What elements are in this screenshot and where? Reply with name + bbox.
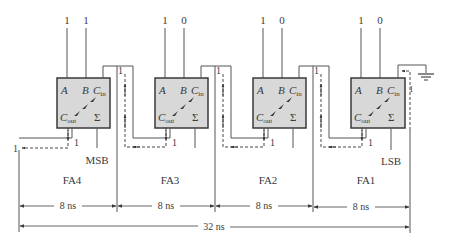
full-adder-fa4: 1 1 A B Cin Cout Σ 1 1 MSB FA4 [13,14,110,186]
carry-out-value: 1 [368,137,373,148]
full-adder-fa1: 1 0 A B Cin Cout Σ 1 1 LSB FA1 1 [299,14,434,186]
stage-delay-label: 8 ns [256,200,273,211]
lsb-label: LSB [381,155,401,167]
stage-delay-label: 8 ns [353,201,370,212]
total-delay-label: 32 ns [203,221,225,232]
total-delay: 32 ns [20,221,409,232]
input-b-value: 0 [181,14,187,26]
input-b-value: 1 [83,14,89,26]
pin-sum-label: Σ [388,111,394,123]
adder-name: FA2 [259,174,278,186]
pin-sum-label: Σ [290,111,296,123]
input-a-value: 1 [64,14,70,26]
pin-b-label: B [278,84,285,96]
stage-delay-label: 8 ns [158,200,175,211]
pin-a-label: A [256,84,264,96]
pin-sum-label: Σ [192,111,198,123]
input-a-value: 1 [162,14,168,26]
fa1-carry-in-zero: 1 [409,84,414,94]
carry-out-value: 1 [74,137,79,148]
cout-wire [19,128,72,138]
pin-b-label: B [180,84,187,96]
carry-out-value: 1 [172,137,177,148]
carry-out-value: 1 [270,137,275,148]
carry-in-value: 1 [314,65,319,76]
full-adder-fa2: 1 0 A B Cin Cout Σ 1 1 FA2 [201,14,306,186]
final-carry-out-value: 1 [13,143,18,154]
pin-sum-label: Σ [94,111,100,123]
pin-a-label: A [354,84,362,96]
pin-b-label: B [376,84,383,96]
stage-delay-4: 8 ns [20,200,116,211]
stage-delay-label: 8 ns [60,200,77,211]
pin-b-label: B [82,84,89,96]
carry-in-value: 1 [216,65,221,76]
adder-name: FA1 [357,174,376,186]
full-adder-fa3: 1 0 A B Cin Cout Σ 1 1 FA3 [103,14,208,186]
stage-delay-3: 8 ns [118,200,214,211]
stage-delay-2: 8 ns [216,200,312,211]
msb-label: MSB [85,154,108,166]
ground-wire [398,65,426,78]
pin-a-label: A [158,84,166,96]
input-b-value: 0 [279,14,285,26]
adder-name: FA4 [63,174,82,186]
input-a-value: 1 [358,14,364,26]
ripple-carry-adder-diagram: 1 1 A B Cin Cout Σ 1 1 MSB FA4 1 0 A B C… [0,0,452,247]
adder-name: FA3 [161,174,180,186]
input-b-value: 0 [377,14,383,26]
carry-in-value: 1 [118,65,123,76]
pin-a-label: A [60,84,68,96]
input-a-value: 1 [260,14,266,26]
ground-icon [418,74,434,80]
stage-delay-1: 8 ns [314,201,409,212]
